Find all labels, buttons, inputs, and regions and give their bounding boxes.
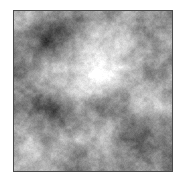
image-frame	[13, 10, 173, 172]
noise-image	[14, 11, 172, 171]
page-background	[0, 0, 187, 183]
